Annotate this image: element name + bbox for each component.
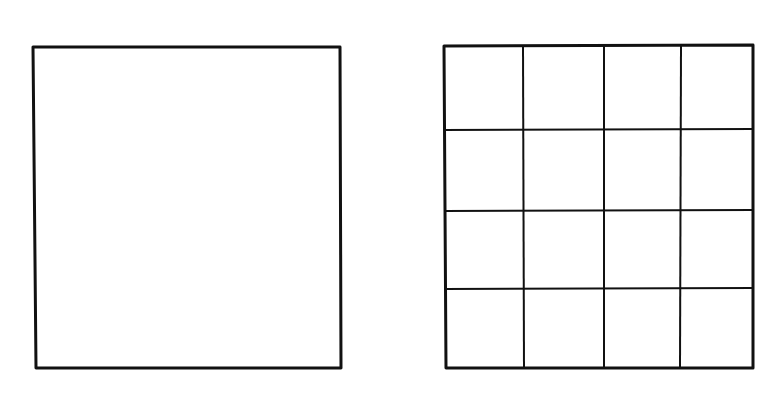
grid-square-panel — [444, 45, 753, 368]
grid-hline-3 — [445, 288, 753, 289]
grid-vline-3 — [680, 46, 681, 368]
empty-square-panel — [33, 47, 341, 368]
grid-vline-1 — [523, 46, 524, 368]
diagram-canvas — [0, 0, 780, 407]
grid-vertical-lines — [523, 46, 681, 368]
grid-horizontal-lines — [444, 129, 753, 289]
grid-square-outline — [444, 45, 753, 368]
empty-square-outline — [33, 47, 341, 368]
grid-hline-2 — [445, 210, 753, 211]
grid-hline-1 — [444, 129, 753, 130]
